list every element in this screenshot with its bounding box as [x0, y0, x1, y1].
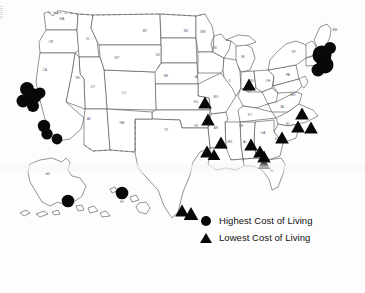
state-label-wa: WA [59, 17, 65, 21]
marker-highest-cost [35, 88, 46, 99]
legend-label-highest: Highest Cost of Living [219, 215, 313, 226]
state-label-ny: NY [292, 50, 297, 54]
state-label-md: MD [290, 93, 296, 97]
legend-item-lowest: Lowest Cost of Living [198, 229, 313, 246]
state-label-tx: TX [164, 128, 168, 132]
state-label-oh: OH [266, 79, 271, 83]
map-figure: WAORIDMTNDMNSDWYNEIAWIMICANVUTCOKSMOILIN… [0, 0, 365, 293]
state-label-wi: WI [213, 46, 217, 50]
state-label-mo: MO [213, 95, 219, 99]
map-legend: Highest Cost of Living Lowest Cost of Li… [198, 212, 313, 246]
state-label-nm: NM [119, 121, 124, 125]
state-label-ar: AR [214, 126, 219, 130]
scan-edge-artifact [0, 6, 3, 20]
marker-highest-cost [27, 100, 39, 112]
state-label-sd: SD [156, 53, 161, 57]
state-label-or: OR [49, 40, 55, 44]
marker-highest-cost [41, 128, 52, 139]
triangle-icon [198, 231, 214, 245]
legend-item-highest: Highest Cost of Living [198, 212, 313, 229]
state-label-mt: MT [143, 29, 148, 33]
state-label-ms: MS [228, 140, 233, 144]
state-label-nd: ND [184, 29, 189, 33]
state-label-me: ME [333, 28, 338, 32]
alaska-outline [20, 158, 110, 217]
state-label-wy: WY [114, 56, 119, 60]
legend-label-lowest: Lowest Cost of Living [219, 232, 310, 243]
state-label-al: AL [243, 140, 247, 144]
state-label-hi: HI [120, 200, 123, 204]
state-label-mi: MI [241, 55, 245, 59]
state-label-ne: NE [164, 74, 169, 78]
state-label-il: IL [229, 79, 232, 83]
marker-highest-cost [116, 187, 129, 200]
state-label-ks: KS [194, 100, 198, 104]
state-label-az: AZ [87, 117, 91, 121]
state-label-ut: UT [91, 85, 95, 89]
marker-highest-cost [312, 64, 325, 77]
marker-highest-cost [62, 195, 75, 208]
marker-highest-cost [324, 42, 336, 54]
hawaii-outline [110, 187, 150, 214]
marker-lowest-cost [304, 122, 318, 134]
state-label-nc: NC [286, 122, 291, 126]
us-map-svg: WAORIDMTNDMNSDWYNEIAWIMICANVUTCOKSMOILIN… [0, 0, 365, 293]
circle-icon [198, 214, 214, 228]
state-label-ky: KY [248, 113, 252, 117]
state-label-fl: FL [270, 169, 274, 173]
state-label-co: CO [122, 91, 127, 95]
marker-highest-cost [52, 134, 63, 145]
state-label-tn: TN [239, 124, 243, 128]
state-label-mn: MN [200, 30, 205, 34]
